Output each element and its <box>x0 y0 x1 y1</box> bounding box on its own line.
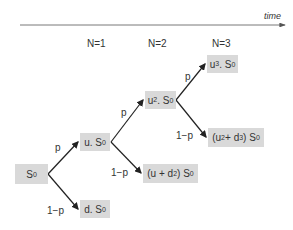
node-uu: u2. S0 <box>145 91 176 109</box>
prob-root-up: p <box>55 142 61 153</box>
node-u: u. S0 <box>80 133 110 151</box>
prob-u-down: 1−p <box>111 167 128 178</box>
node-ud: (u + d2) S0 <box>143 164 198 183</box>
prob-uu-up: p <box>185 71 191 82</box>
step-label-2: N=2 <box>148 38 167 49</box>
node-uuu: u3. S0 <box>207 55 238 73</box>
prob-uu-down: 1−p <box>176 130 193 141</box>
step-label-1: N=1 <box>87 38 106 49</box>
tree-edges <box>0 0 293 230</box>
node-uud: (u2 + d3) S0 <box>208 128 264 147</box>
time-axis-label: time <box>264 11 281 21</box>
edge-uu-up <box>176 64 205 100</box>
node-d: d. S0 <box>80 200 110 218</box>
edge-u-up <box>111 100 143 142</box>
node-root: S0 <box>15 164 48 184</box>
edge-root-down <box>48 174 78 209</box>
prob-root-down: 1−p <box>47 205 64 216</box>
prob-u-up: p <box>121 107 127 118</box>
edge-root-up <box>48 142 78 174</box>
step-label-3: N=3 <box>212 38 231 49</box>
